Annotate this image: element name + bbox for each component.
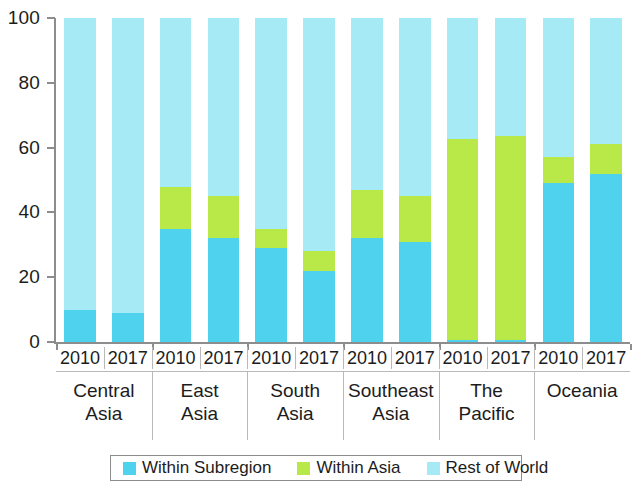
x-axis-line: [54, 342, 630, 344]
y-tick-label: 100: [8, 8, 40, 27]
x-axis-region-labels: CentralAsiaEastAsiaSouthAsiaSoutheastAsi…: [56, 371, 630, 440]
x-tick-year-label: 2010: [343, 346, 391, 370]
year-group: 20102017: [534, 346, 630, 370]
bar-slot: [104, 18, 152, 342]
bar-segment-rest-of-world: [495, 18, 527, 136]
legend-label: Within Asia: [316, 458, 400, 478]
stacked-bar[interactable]: [160, 18, 192, 342]
year-group: 20102017: [343, 346, 439, 370]
region-label-cell: EastAsia: [152, 372, 248, 440]
bar-segment-within-asia: [495, 136, 527, 340]
bar-segment-within-subregion: [543, 183, 575, 342]
legend-item[interactable]: Within Subregion: [123, 458, 271, 478]
region-label-line1: Southeast: [348, 379, 434, 402]
region-label-line1: The: [459, 379, 515, 402]
legend-swatch-icon: [297, 462, 310, 475]
bar-segment-within-subregion: [160, 229, 192, 342]
bar-group: [439, 18, 535, 342]
bar-segment-rest-of-world: [351, 18, 383, 190]
y-tick-mark: [47, 17, 55, 19]
bar-slot: [391, 18, 439, 342]
bar-slot: [295, 18, 343, 342]
stacked-bar[interactable]: [399, 18, 431, 342]
y-tick-mark: [47, 211, 55, 213]
stacked-bar[interactable]: [590, 18, 622, 342]
region-label-line2: Asia: [348, 402, 434, 425]
bar-group: [56, 18, 152, 342]
bar-slot: [56, 18, 104, 342]
bar-segment-within-asia: [399, 196, 431, 241]
bar-segment-within-asia: [543, 157, 575, 183]
x-tick-year-label: 2017: [200, 346, 248, 370]
stacked-bar[interactable]: [64, 18, 96, 342]
stacked-bar[interactable]: [495, 18, 527, 342]
bar-segment-within-subregion: [255, 248, 287, 342]
x-tick-year-label: 2010: [152, 346, 200, 370]
x-tick-year-label: 2017: [104, 346, 152, 370]
bar-segment-rest-of-world: [447, 18, 479, 139]
plot-area: [56, 18, 630, 342]
bar-segment-within-asia: [447, 139, 479, 340]
bar-group: [152, 18, 248, 342]
bar-segment-rest-of-world: [303, 18, 335, 251]
chart-legend: Within SubregionWithin AsiaRest of World: [110, 455, 522, 481]
y-tick-label: 0: [29, 332, 40, 351]
y-tick-label: 20: [18, 267, 40, 286]
x-tick-year-label: 2017: [582, 346, 630, 370]
bar-slot: [439, 18, 487, 342]
bar-groups: [56, 18, 630, 342]
legend-item[interactable]: Within Asia: [297, 458, 400, 478]
bar-segment-within-asia: [160, 187, 192, 229]
bar-group: [247, 18, 343, 342]
bar-group: [534, 18, 630, 342]
bar-segment-rest-of-world: [64, 18, 96, 310]
stacked-bar[interactable]: [208, 18, 240, 342]
stacked-bar[interactable]: [255, 18, 287, 342]
x-tick-year-label: 2010: [439, 346, 487, 370]
bar-segment-within-subregion: [208, 238, 240, 342]
bar-segment-within-subregion: [399, 242, 431, 342]
region-label-line1: Oceania: [547, 379, 618, 402]
bar-segment-rest-of-world: [208, 18, 240, 196]
bar-segment-rest-of-world: [112, 18, 144, 313]
bar-segment-within-asia: [590, 144, 622, 173]
stacked-bar[interactable]: [351, 18, 383, 342]
legend-label: Rest of World: [446, 458, 549, 478]
bar-group: [343, 18, 439, 342]
region-label-line2: Pacific: [459, 402, 515, 425]
region-label-cell: SoutheastAsia: [343, 372, 439, 440]
stacked-bar[interactable]: [303, 18, 335, 342]
bar-segment-within-asia: [208, 196, 240, 238]
x-tick-year-label: 2010: [534, 346, 582, 370]
bar-segment-within-subregion: [112, 313, 144, 342]
y-tick-mark: [47, 276, 55, 278]
region-label-cell: CentralAsia: [56, 372, 152, 440]
stacked-bar[interactable]: [543, 18, 575, 342]
bar-slot: [200, 18, 248, 342]
year-group: 20102017: [152, 346, 248, 370]
region-label-line2: Asia: [180, 402, 218, 425]
bar-slot: [487, 18, 535, 342]
legend-item[interactable]: Rest of World: [427, 458, 549, 478]
legend-swatch-icon: [123, 462, 136, 475]
bar-segment-within-asia: [255, 229, 287, 248]
bar-slot: [247, 18, 295, 342]
bar-segment-rest-of-world: [255, 18, 287, 229]
region-label-cell: SouthAsia: [247, 372, 343, 440]
stacked-bar[interactable]: [112, 18, 144, 342]
y-tick-label: 80: [18, 73, 40, 92]
y-tick-label: 60: [18, 138, 40, 157]
bar-segment-within-subregion: [64, 310, 96, 342]
stacked-bar[interactable]: [447, 18, 479, 342]
x-tick-year-label: 2010: [247, 346, 295, 370]
bar-slot: [582, 18, 630, 342]
bar-segment-within-subregion: [590, 174, 622, 342]
x-axis-year-labels: 2010201720102017201020172010201720102017…: [56, 346, 630, 370]
region-label-cell: ThePacific: [439, 372, 535, 440]
bar-slot: [534, 18, 582, 342]
bar-slot: [152, 18, 200, 342]
bar-segment-rest-of-world: [590, 18, 622, 144]
bar-segment-within-asia: [351, 190, 383, 239]
region-label-line1: South: [270, 379, 320, 402]
x-tick-year-label: 2017: [295, 346, 343, 370]
